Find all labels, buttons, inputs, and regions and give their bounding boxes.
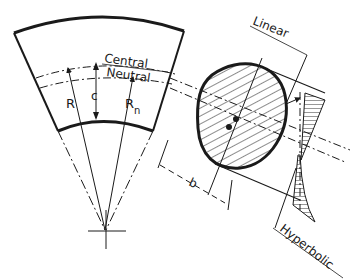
curved-beam-diagram: Central Neutral R c R n b bbox=[0, 0, 361, 279]
label-b: b bbox=[187, 175, 200, 191]
diagram-canvas: Central Neutral R c R n b bbox=[0, 0, 361, 279]
curved-beam-sector bbox=[14, 17, 184, 249]
label-c: c bbox=[91, 89, 98, 103]
label-Rn-subscript: n bbox=[134, 105, 140, 116]
label-R: R bbox=[66, 96, 75, 111]
stress-distribution bbox=[275, 55, 325, 228]
label-Rn: R bbox=[125, 96, 134, 111]
label-hyperbolic: Hyperbolic bbox=[277, 221, 336, 272]
